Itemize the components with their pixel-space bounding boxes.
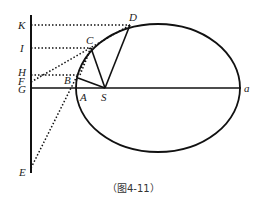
label-E: E (18, 166, 26, 178)
label-I: I (19, 42, 25, 54)
dotted-line-F-D (31, 25, 130, 82)
kepler-ellipse-diagram: K I H F G E B A S C D a （图4-11） (0, 0, 263, 203)
label-A: A (79, 91, 87, 103)
dotted-line-E-C (31, 48, 91, 168)
label-D: D (128, 11, 137, 23)
radius-S-C (91, 48, 105, 88)
label-C: C (86, 34, 94, 46)
figure-caption: （图4-11） (107, 183, 160, 194)
label-S: S (101, 91, 107, 103)
dotted-chord-B-C (80, 48, 91, 75)
label-G: G (18, 83, 26, 95)
label-B: B (64, 74, 71, 86)
radius-S-D (105, 25, 130, 88)
label-K: K (17, 19, 26, 31)
label-a: a (244, 82, 250, 94)
radius-S-B (78, 78, 105, 88)
